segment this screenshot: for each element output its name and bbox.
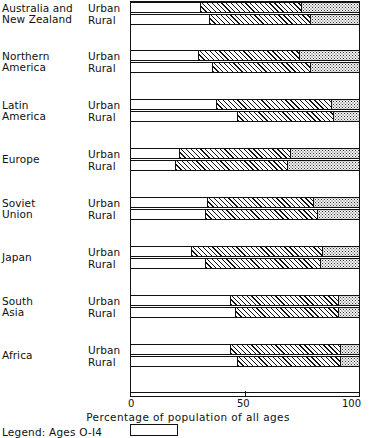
stacked-bar <box>130 50 360 61</box>
region-label: Japan <box>2 252 86 264</box>
region-label: Australia andNew Zealand <box>2 3 86 26</box>
segment-ages-65-plus <box>301 3 360 12</box>
segment-ages-0-14 <box>131 3 200 12</box>
segment-ages-0-14 <box>131 100 216 109</box>
segment-ages-0-14 <box>131 63 212 72</box>
segment-ages-65-plus <box>322 247 360 256</box>
stacked-bar <box>130 62 360 73</box>
region-label-line: America <box>2 111 86 123</box>
stacked-bar <box>130 258 360 269</box>
bar-category-label: Rural <box>88 210 128 222</box>
stacked-bar <box>130 344 360 355</box>
segment-ages-65-plus <box>299 51 360 60</box>
region-label: Africa <box>2 350 86 362</box>
region-label: LatinAmerica <box>2 100 86 123</box>
segment-ages-0-14 <box>131 161 175 170</box>
segment-ages-65-plus <box>290 149 360 158</box>
stacked-bar <box>130 197 360 208</box>
segment-ages-65-plus <box>331 100 360 109</box>
bar-category-label: Urban <box>88 296 128 308</box>
segment-ages-0-14 <box>131 51 198 60</box>
bar-category-label: Rural <box>88 357 128 369</box>
segment-ages-65-plus <box>310 15 360 24</box>
segment-ages-65-plus <box>287 161 360 170</box>
x-axis-tick-label: 0 <box>128 398 134 409</box>
segment-ages-15-64 <box>237 112 334 121</box>
segment-ages-0-14 <box>131 247 191 256</box>
x-axis-tick <box>359 391 360 397</box>
segment-ages-0-14 <box>131 210 205 219</box>
region-label: SouthAsia <box>2 296 86 319</box>
bar-category-label: Urban <box>88 345 128 357</box>
stacked-bar <box>130 14 360 25</box>
stacked-bar <box>130 2 360 13</box>
segment-ages-15-64 <box>200 3 301 12</box>
segment-ages-15-64 <box>212 63 311 72</box>
segment-ages-15-64 <box>198 51 299 60</box>
bar-category-label: Urban <box>88 3 128 15</box>
region-label-line: Asia <box>2 307 86 319</box>
segment-ages-0-14 <box>131 112 237 121</box>
stacked-bar <box>130 307 360 318</box>
ages-0-14-swatch <box>130 424 178 436</box>
bar-category-label: Rural <box>88 15 128 27</box>
segment-ages-15-64 <box>191 247 322 256</box>
segment-ages-65-plus <box>310 63 360 72</box>
bar-category-label: Rural <box>88 112 128 124</box>
stacked-bar <box>130 148 360 159</box>
segment-ages-15-64 <box>205 210 318 219</box>
stacked-bar <box>130 111 360 122</box>
segment-ages-65-plus <box>313 198 360 207</box>
stacked-bar <box>130 295 360 306</box>
segment-ages-65-plus <box>340 345 360 354</box>
x-axis-tick-label: 100 <box>342 398 361 409</box>
segment-ages-15-64 <box>237 357 341 366</box>
bar-category-label: Urban <box>88 198 128 210</box>
bar-category-label: Rural <box>88 259 128 271</box>
segment-ages-15-64 <box>205 259 320 268</box>
segment-ages-0-14 <box>131 308 235 317</box>
segment-ages-0-14 <box>131 259 205 268</box>
bar-category-label: Rural <box>88 63 128 75</box>
region-label-line: Union <box>2 209 86 221</box>
segment-ages-15-64 <box>175 161 288 170</box>
region-label-line: Africa <box>2 350 86 362</box>
stacked-bar <box>130 246 360 257</box>
segment-ages-15-64 <box>179 149 289 158</box>
region-label: NorthernAmerica <box>2 51 86 74</box>
stacked-bar <box>130 356 360 367</box>
region-label: SovietUnion <box>2 198 86 221</box>
segment-ages-15-64 <box>230 345 340 354</box>
segment-ages-0-14 <box>131 198 207 207</box>
segment-ages-0-14 <box>131 357 237 366</box>
segment-ages-0-14 <box>131 296 230 305</box>
x-axis-tick-label: 50 <box>237 398 250 409</box>
segment-ages-65-plus <box>317 210 360 219</box>
bar-category-label: Urban <box>88 247 128 259</box>
population-age-structure-chart: Australia andNew ZealandUrbanRuralNorthe… <box>0 0 376 438</box>
stacked-bar <box>130 99 360 110</box>
legend: Legend: Ages O-I4 <box>2 426 102 438</box>
segment-ages-15-64 <box>209 15 310 24</box>
segment-ages-65-plus <box>320 259 360 268</box>
stacked-bar <box>130 160 360 171</box>
x-axis-label: Percentage of population of all ages <box>0 411 376 423</box>
bar-category-label: Rural <box>88 308 128 320</box>
region-label: Europe <box>2 154 86 166</box>
bar-category-label: Urban <box>88 51 128 63</box>
segment-ages-0-14 <box>131 345 230 354</box>
region-label-line: Europe <box>2 154 86 166</box>
segment-ages-15-64 <box>235 308 339 317</box>
segment-ages-65-plus <box>338 296 360 305</box>
bar-category-label: Urban <box>88 149 128 161</box>
x-axis-tick <box>245 391 246 397</box>
segment-ages-65-plus <box>333 112 360 121</box>
segment-ages-65-plus <box>340 357 360 366</box>
x-axis-tick <box>130 391 131 397</box>
segment-ages-15-64 <box>216 100 331 109</box>
segment-ages-0-14 <box>131 149 179 158</box>
segment-ages-15-64 <box>230 296 338 305</box>
stacked-bar <box>130 209 360 220</box>
segment-ages-0-14 <box>131 15 209 24</box>
region-label-line: Japan <box>2 252 86 264</box>
